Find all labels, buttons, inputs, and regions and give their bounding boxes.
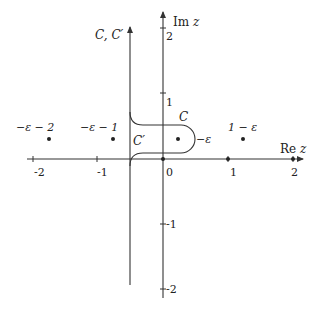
pole-label-minus-eps-minus-2: −ε − 2 [16, 121, 54, 134]
x-tick-label-2: 2 [291, 166, 298, 179]
x-tick-label-0: 0 [166, 166, 173, 179]
complex-plane-diagram: -2 -1 0 1 2 2 1 -1 -2 Im z Re z C, C′ C … [0, 0, 317, 312]
re-axis-label: Re z [280, 142, 307, 156]
pole-minus-eps-minus-1 [111, 137, 115, 141]
origin-dot [161, 157, 165, 161]
pole-label-minus-eps-minus-1: −ε − 1 [80, 121, 118, 134]
x-tick-label-neg1: -1 [97, 166, 108, 179]
x-tick-label-neg2: -2 [34, 166, 45, 179]
pole-one-minus-eps [241, 137, 245, 141]
y-tick-label-neg2: -2 [166, 283, 177, 296]
y-tick-label-2: 2 [166, 30, 173, 43]
y-tick-label-neg1: -1 [166, 218, 177, 231]
contour-c-label: C [179, 110, 188, 124]
pole-minus-eps-minus-2 [47, 137, 51, 141]
x-tick-label-1: 1 [230, 166, 237, 179]
pole-label-minus-eps: −ε [196, 133, 211, 146]
contour-c-prime-label: C′ [133, 134, 145, 148]
vertical-contour-label: C, C′ [95, 28, 124, 42]
im-axis-label: Im z [173, 15, 200, 29]
pole-minus-eps [176, 137, 180, 141]
pole-label-one-minus-eps: 1 − ε [228, 121, 257, 134]
y-tick-label-1: 1 [166, 96, 173, 109]
real-one-dot [226, 157, 230, 161]
real-two-dot [291, 157, 295, 161]
